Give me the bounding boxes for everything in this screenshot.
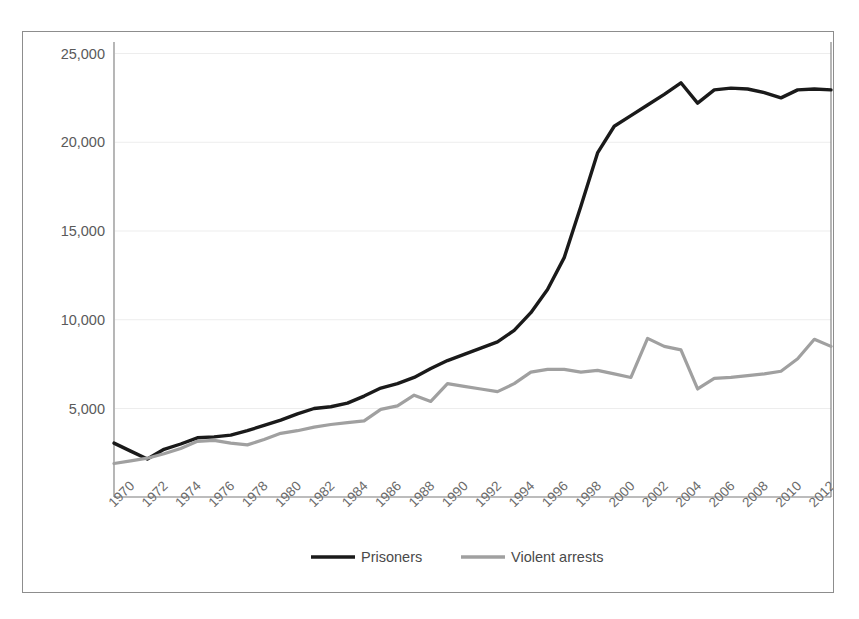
y-tick-label: 20,000 xyxy=(61,134,105,150)
x-tick-label: 1990 xyxy=(439,478,471,510)
x-tick-label: 1974 xyxy=(172,478,204,510)
x-tick-label: 2000 xyxy=(606,478,638,510)
legend-label: Prisoners xyxy=(361,549,422,565)
x-tick-label: 1972 xyxy=(139,478,171,510)
x-tick-label: 2008 xyxy=(739,478,771,510)
gridlines xyxy=(115,54,831,409)
x-tick-label: 1988 xyxy=(406,478,438,510)
x-tick-label: 2002 xyxy=(639,478,671,510)
x-tick-label: 1982 xyxy=(306,478,338,510)
x-tick-label: 1980 xyxy=(272,478,304,510)
series-line-violent-arrests xyxy=(114,338,831,463)
y-tick-label: 15,000 xyxy=(61,223,105,239)
x-tick-label: 1998 xyxy=(572,478,604,510)
axis-lines xyxy=(114,42,831,497)
legend-label: Violent arrests xyxy=(511,549,603,565)
x-tick-label: 2004 xyxy=(672,478,704,510)
x-tick-label: 1978 xyxy=(239,478,271,510)
x-tick-label: 2010 xyxy=(772,478,804,510)
x-tick-label: 1992 xyxy=(472,478,504,510)
data-series xyxy=(114,83,831,464)
x-tick-label: 1994 xyxy=(506,478,538,510)
x-tick-label: 1996 xyxy=(539,478,571,510)
x-axis-tick-labels: 1970197219741976197819801982198419861988… xyxy=(106,478,833,510)
x-tick-label: 1976 xyxy=(206,478,238,510)
chart-legend: PrisonersViolent arrests xyxy=(311,549,603,565)
y-tick-label: 10,000 xyxy=(61,312,105,328)
x-tick-label: 1984 xyxy=(339,478,371,510)
series-line-prisoners xyxy=(114,83,831,459)
x-tick-label: 2012 xyxy=(806,478,833,510)
line-chart-plot: 5,00010,00015,00020,00025,000 1970197219… xyxy=(23,32,833,592)
y-tick-label: 5,000 xyxy=(69,401,105,417)
y-axis-tick-labels: 5,00010,00015,00020,00025,000 xyxy=(61,46,105,417)
x-tick-label: 1986 xyxy=(372,478,404,510)
chart-container: 5,00010,00015,00020,00025,000 1970197219… xyxy=(22,31,834,593)
x-tick-label: 2006 xyxy=(706,478,738,510)
y-tick-label: 25,000 xyxy=(61,46,105,62)
x-tick-label: 1970 xyxy=(106,478,138,510)
